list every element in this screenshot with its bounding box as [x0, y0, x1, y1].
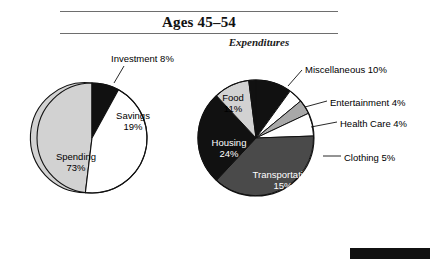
slice-label-food: Food 11%	[212, 92, 254, 114]
slice-label-spending-pct: 73%	[40, 162, 112, 173]
slice-label-transportation-pct: 15%	[248, 180, 318, 191]
callout-label-entertainment: Entertainment 4%	[330, 97, 406, 108]
slice-label-spending-name: Spending	[56, 151, 96, 162]
slice-label-savings-pct: 19%	[106, 121, 160, 132]
callout-label-health-care: Health Care 4%	[340, 118, 407, 129]
leader-line-miscellaneous	[288, 70, 302, 86]
footer-black-bar	[350, 248, 430, 259]
slice-label-savings-name: Savings	[116, 110, 150, 121]
slice-label-spending: Spending 73%	[40, 151, 112, 173]
slice-label-housing: Housing 24%	[203, 137, 255, 159]
callout-label-clothing: Clothing 5%	[344, 152, 395, 163]
slice-label-housing-name: Housing	[212, 137, 247, 148]
slice-label-food-pct: 11%	[212, 103, 254, 114]
slice-label-savings: Savings 19%	[106, 110, 160, 132]
leader-line-health-care	[311, 122, 337, 127]
callout-label-miscellaneous: Miscellaneous 10%	[305, 64, 387, 75]
callout-label-investment: Investment 8%	[111, 53, 174, 64]
slice-label-transportation: Transportation 15%	[248, 169, 318, 191]
leader-line-investment	[114, 66, 124, 83]
leader-line-entertainment	[305, 101, 327, 107]
slice-label-food-name: Food	[222, 92, 244, 103]
document-page: Ages 45–54 Expenditures	[0, 0, 430, 270]
slice-label-housing-pct: 24%	[203, 148, 255, 159]
leader-lines	[0, 0, 430, 270]
slice-label-transportation-name: Transportation	[253, 169, 314, 180]
